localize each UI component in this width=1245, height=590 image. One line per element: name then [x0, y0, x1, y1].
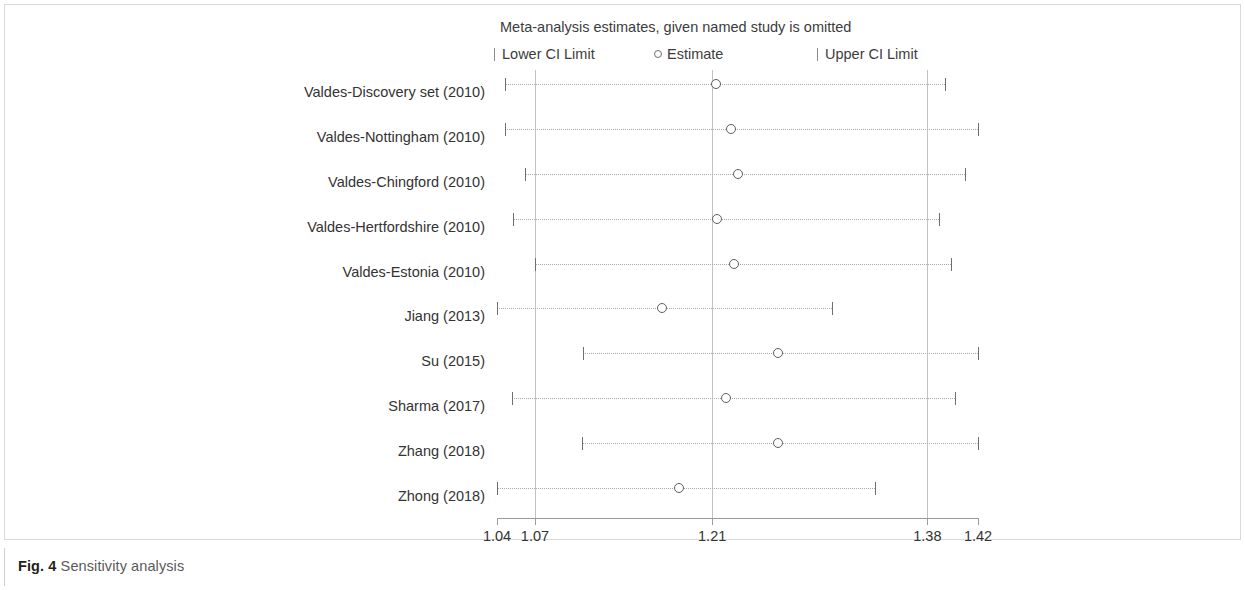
x-axis-tick: [535, 518, 536, 525]
reference-line: [927, 70, 928, 518]
upper-ci-cap: [978, 347, 979, 360]
estimate-marker: [712, 214, 722, 224]
tick-marker-icon: [817, 48, 818, 61]
confidence-interval-line: [513, 219, 938, 221]
confidence-interval-line: [497, 488, 875, 490]
upper-ci-cap: [951, 258, 952, 271]
y-axis-label: Jiang (2013): [404, 308, 485, 324]
reference-line: [535, 70, 536, 518]
plot-area: [497, 70, 978, 518]
y-axis-label: Zhong (2018): [398, 488, 485, 504]
x-axis-tick-label: 1.42: [964, 528, 992, 544]
legend-label-lower-ci: Lower CI Limit: [502, 46, 595, 62]
lower-ci-cap: [513, 213, 514, 226]
study-row: [497, 264, 978, 266]
lower-ci-cap: [583, 347, 584, 360]
estimate-marker: [711, 79, 721, 89]
y-axis-study-labels: Valdes-Discovery set (2010)Valdes-Nottin…: [180, 74, 485, 514]
estimate-marker: [773, 438, 783, 448]
study-row: [497, 443, 978, 445]
y-axis-label: Valdes-Chingford (2010): [328, 174, 485, 190]
upper-ci-cap: [965, 168, 966, 181]
upper-ci-cap: [955, 392, 956, 405]
reference-line: [712, 70, 713, 518]
confidence-interval-line: [525, 174, 965, 176]
upper-ci-cap: [978, 123, 979, 136]
estimate-marker: [726, 124, 736, 134]
figure-caption-text: Sensitivity analysis: [61, 558, 185, 574]
x-axis-tick-label: 1.21: [698, 528, 726, 544]
lower-ci-cap: [535, 258, 536, 271]
x-axis-tick: [927, 518, 928, 525]
y-axis-label: Valdes-Nottingham (2010): [317, 129, 485, 145]
x-axis-tick: [978, 518, 979, 525]
legend-item-lower-ci: Lower CI Limit: [494, 46, 595, 62]
confidence-interval-line: [512, 398, 955, 400]
lower-ci-cap: [497, 302, 498, 315]
figure-caption: Fig. 4 Sensitivity analysis: [18, 558, 184, 574]
lower-ci-cap: [505, 78, 506, 91]
study-row: [497, 129, 978, 131]
lower-ci-cap: [525, 168, 526, 181]
x-axis-tick-label: 1.04: [483, 528, 511, 544]
x-axis-line: [497, 518, 978, 519]
legend-label-estimate: Estimate: [667, 46, 723, 62]
caption-divider: [4, 548, 5, 586]
y-axis-label: Sharma (2017): [388, 398, 485, 414]
chart-legend: Lower CI Limit Estimate Upper CI Limit: [494, 46, 964, 66]
lower-ci-cap: [505, 123, 506, 136]
lower-ci-cap: [512, 392, 513, 405]
y-axis-label: Valdes-Hertfordshire (2010): [307, 219, 485, 235]
y-axis-label: Valdes-Estonia (2010): [343, 264, 485, 280]
upper-ci-cap: [945, 78, 946, 91]
x-axis-tick: [497, 518, 498, 525]
upper-ci-cap: [832, 302, 833, 315]
x-axis-tick-label: 1.07: [521, 528, 549, 544]
tick-marker-icon: [494, 48, 495, 61]
estimate-marker: [733, 169, 743, 179]
figure-caption-label: Fig. 4: [18, 558, 56, 574]
study-row: [497, 219, 978, 221]
lower-ci-cap: [582, 437, 583, 450]
upper-ci-cap: [978, 437, 979, 450]
legend-item-estimate: Estimate: [654, 46, 723, 62]
x-axis-tick-label: 1.38: [913, 528, 941, 544]
upper-ci-cap: [939, 213, 940, 226]
lower-ci-cap: [497, 482, 498, 495]
estimate-marker: [721, 393, 731, 403]
study-row: [497, 174, 978, 176]
x-axis-tick: [712, 518, 713, 525]
chart-title: Meta-analysis estimates, given named stu…: [500, 19, 851, 35]
estimate-marker: [657, 303, 667, 313]
confidence-interval-line: [505, 129, 978, 131]
study-row: [497, 308, 978, 310]
study-row: [497, 398, 978, 400]
figure-root: Meta-analysis estimates, given named stu…: [0, 0, 1245, 590]
upper-ci-cap: [875, 482, 876, 495]
legend-label-upper-ci: Upper CI Limit: [825, 46, 918, 62]
y-axis-label: Zhang (2018): [398, 443, 485, 459]
confidence-interval-line: [505, 84, 945, 86]
estimate-marker: [674, 483, 684, 493]
study-row: [497, 84, 978, 86]
y-axis-label: Valdes-Discovery set (2010): [304, 84, 485, 100]
confidence-interval-line: [535, 264, 951, 266]
study-row: [497, 353, 978, 355]
estimate-marker: [773, 348, 783, 358]
estimate-marker: [729, 259, 739, 269]
study-row: [497, 488, 978, 490]
sensitivity-analysis-plot: Meta-analysis estimates, given named stu…: [0, 0, 1245, 545]
circle-marker-icon: [654, 50, 662, 58]
y-axis-label: Su (2015): [421, 353, 485, 369]
legend-item-upper-ci: Upper CI Limit: [817, 46, 918, 62]
